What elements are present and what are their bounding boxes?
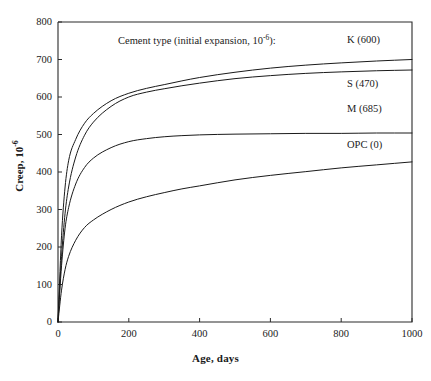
ytick-label-100: 100 bbox=[24, 279, 52, 290]
ytick-label-300: 300 bbox=[24, 204, 52, 215]
series-label-k: K (600) bbox=[347, 34, 380, 45]
x-axis-title-text: Age, days bbox=[192, 352, 239, 364]
plot-frame bbox=[58, 22, 412, 322]
ytick-label-500: 500 bbox=[24, 129, 52, 140]
y-axis-title: Creep, 10-6 bbox=[13, 111, 25, 221]
xtick-label-400: 400 bbox=[180, 328, 220, 339]
series-label-m: M (685) bbox=[347, 103, 382, 114]
ytick-label-800: 800 bbox=[24, 16, 52, 27]
xtick-label-800: 800 bbox=[321, 328, 361, 339]
data-curves bbox=[58, 60, 412, 323]
ytick-label-600: 600 bbox=[24, 91, 52, 102]
x-axis-ticks bbox=[58, 318, 412, 322]
chart-title-tail: ): bbox=[269, 35, 275, 46]
xtick-label-1000: 1000 bbox=[392, 328, 431, 339]
series-label-s: S (470) bbox=[347, 78, 378, 89]
chart-title: Cement type (initial expansion, 10-6): bbox=[118, 35, 276, 46]
series-label-opc: OPC (0) bbox=[347, 139, 382, 150]
curve-opc-0 bbox=[58, 162, 412, 322]
curve-m-685 bbox=[58, 133, 412, 322]
ytick-label-200: 200 bbox=[24, 241, 52, 252]
x-axis-title: Age, days bbox=[0, 352, 431, 364]
ytick-label-0: 0 bbox=[24, 316, 52, 327]
xtick-label-200: 200 bbox=[109, 328, 149, 339]
creep-vs-age-chart: 0 100 200 300 400 500 600 700 800 0 200 … bbox=[0, 0, 431, 381]
curve-k-600 bbox=[58, 60, 412, 323]
y-axis-title-text: Creep, 10 bbox=[13, 147, 25, 192]
plot-canvas bbox=[0, 0, 431, 381]
y-axis-title-exponent: -6 bbox=[11, 140, 20, 147]
xtick-label-0: 0 bbox=[38, 328, 78, 339]
xtick-label-600: 600 bbox=[250, 328, 290, 339]
chart-title-text: Cement type (initial expansion, 10 bbox=[118, 35, 263, 46]
ytick-label-700: 700 bbox=[24, 54, 52, 65]
ytick-label-400: 400 bbox=[24, 166, 52, 177]
